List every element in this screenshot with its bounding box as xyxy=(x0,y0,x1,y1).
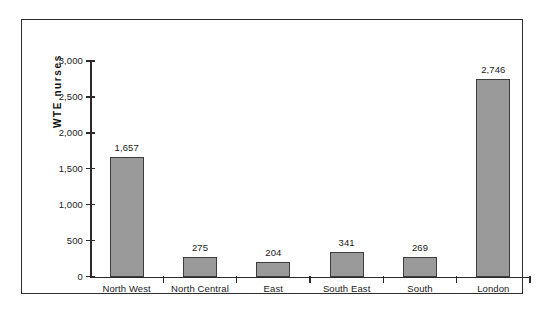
x-axis-category-label: North Central xyxy=(171,284,229,294)
bar xyxy=(256,262,290,277)
plot-area: 05001,0001,5002,0002,5003,000 1,65727520… xyxy=(90,60,530,278)
bar xyxy=(183,257,217,277)
bar-value-label: 275 xyxy=(192,242,208,252)
y-axis-tick xyxy=(86,168,95,169)
y-axis-tick xyxy=(86,276,95,277)
y-axis-tick xyxy=(86,132,95,133)
bar xyxy=(476,79,510,276)
bar xyxy=(403,257,437,276)
bar-value-label: 269 xyxy=(412,243,428,253)
y-axis-tick-label: 0 xyxy=(78,272,83,282)
bar-value-label: 204 xyxy=(265,247,281,257)
y-axis-tick-label: 2,000 xyxy=(59,128,83,138)
y-axis-tick-label: 1,500 xyxy=(59,164,83,174)
x-axis-tick xyxy=(163,276,164,283)
y-axis-tick-label: 3,000 xyxy=(59,56,83,66)
figure: WTE nurses 05001,0001,5002,0002,5003,000… xyxy=(0,0,545,318)
x-axis-tick xyxy=(309,276,310,283)
figure-frame: WTE nurses 05001,0001,5002,0002,5003,000… xyxy=(21,19,523,294)
x-axis-category-label: North West xyxy=(102,284,150,294)
x-axis-tick xyxy=(383,276,384,283)
y-axis-tick xyxy=(86,96,95,97)
y-axis-tick xyxy=(86,240,95,241)
bar-value-label: 1,657 xyxy=(115,143,139,153)
x-axis-tick xyxy=(456,276,457,283)
x-axis-category-label: London xyxy=(477,284,509,294)
y-axis-tick-label: 500 xyxy=(67,236,83,246)
bar-value-label: 2,746 xyxy=(481,65,505,75)
y-axis-tick xyxy=(86,60,95,61)
x-axis-tick xyxy=(236,276,237,283)
bar xyxy=(110,157,144,276)
bar xyxy=(330,252,364,276)
x-axis-category-label: South xyxy=(407,284,432,294)
y-axis-tick xyxy=(86,204,95,205)
y-axis-tick-label: 1,000 xyxy=(59,200,83,210)
bar-value-label: 341 xyxy=(339,238,355,248)
y-axis-tick-label: 2,500 xyxy=(59,92,83,102)
x-axis-category-label: South East xyxy=(323,284,370,294)
x-axis-category-label: East xyxy=(264,284,283,294)
x-axis-tick xyxy=(529,276,530,283)
